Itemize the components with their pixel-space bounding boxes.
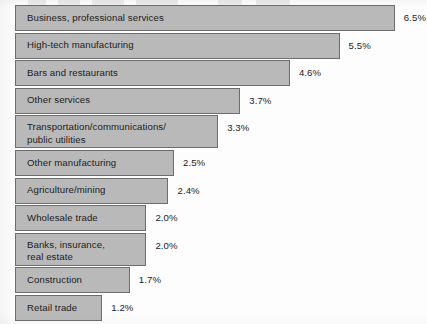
bar-category-label: Agriculture/mining: [16, 184, 106, 197]
bar-category-label: High-tech manufacturing: [16, 39, 134, 52]
bar-category-label: Retail trade: [16, 302, 77, 315]
bar-value-label: 6.5%: [404, 13, 426, 23]
bar-category-label: Wholesale trade: [16, 212, 98, 225]
bar-row: Transportation/communications/ public ut…: [15, 115, 427, 148]
bar-category-label: Other services: [16, 94, 90, 107]
bar: Agriculture/mining: [15, 178, 168, 204]
bar-value-label: 1.7%: [139, 275, 161, 285]
bar-value-label: 2.0%: [155, 213, 177, 223]
bar-category-label: Other manufacturing: [16, 157, 116, 170]
bar-row: Banks, insurance, real estate2.0%: [15, 233, 427, 266]
bar-value-label: 2.4%: [177, 186, 199, 196]
bar-row: Business, professional services6.5%: [15, 5, 427, 31]
bar-category-label: Construction: [16, 274, 82, 287]
bar-row: Wholesale trade2.0%: [15, 205, 427, 231]
bar-row: Other manufacturing2.5%: [15, 150, 427, 176]
bar-category-label: Banks, insurance, real estate: [16, 234, 105, 264]
bar-value-label: 2.0%: [155, 241, 177, 251]
bar-value-label: 2.5%: [183, 158, 205, 168]
bar: Other manufacturing: [15, 150, 174, 176]
bar: Other services: [15, 88, 240, 114]
bar: Transportation/communications/ public ut…: [15, 115, 218, 148]
horizontal-bar-chart: Business, professional services6.5%High-…: [0, 0, 427, 324]
bar-row: Bars and restaurants4.6%: [15, 60, 427, 86]
bar-value-label: 3.3%: [227, 123, 249, 133]
bar: Construction: [15, 267, 130, 293]
bar: Bars and restaurants: [15, 60, 290, 86]
bar-category-label: Transportation/communications/ public ut…: [16, 116, 166, 146]
bar-list: Business, professional services6.5%High-…: [15, 5, 427, 323]
bar-value-label: 5.5%: [349, 41, 371, 51]
bar: Wholesale trade: [15, 205, 146, 231]
bar-value-label: 3.7%: [249, 96, 271, 106]
bar: High-tech manufacturing: [15, 33, 340, 59]
bar-category-label: Bars and restaurants: [16, 67, 118, 80]
bar-row: High-tech manufacturing5.5%: [15, 33, 427, 59]
bar-row: Retail trade1.2%: [15, 295, 427, 321]
bar: Business, professional services: [15, 5, 395, 31]
bar-value-label: 4.6%: [299, 68, 321, 78]
bar: Retail trade: [15, 295, 102, 321]
bar-value-label: 1.2%: [111, 303, 133, 313]
bar: Banks, insurance, real estate: [15, 233, 146, 266]
bar-row: Other services3.7%: [15, 88, 427, 114]
bar-row: Agriculture/mining2.4%: [15, 178, 427, 204]
bar-row: Construction1.7%: [15, 267, 427, 293]
bar-category-label: Business, professional services: [16, 12, 164, 25]
